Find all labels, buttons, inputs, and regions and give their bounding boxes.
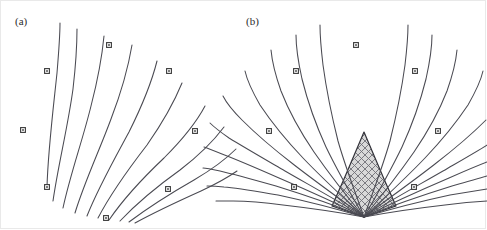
panel-b-marker-7 (292, 185, 297, 190)
panel-a-characteristic-curve-3 (63, 36, 104, 208)
panel-a-characteristic-curve-4 (75, 45, 132, 213)
panel-a-marker-5 (193, 129, 198, 134)
panel-b-marker-5 (436, 129, 441, 134)
panel-a-characteristic-curve-10 (135, 171, 237, 223)
panel-b-marker-6 (412, 185, 417, 190)
panel-b-marker-2 (294, 69, 299, 74)
panel-a-marker-7 (45, 185, 50, 190)
marker-square-center (293, 186, 295, 188)
marker-square-center (295, 70, 297, 72)
marker-square-center (414, 70, 416, 72)
marker-square-center (22, 129, 24, 131)
panel-a-marker-2 (45, 69, 50, 74)
marker-square-center (268, 130, 270, 132)
panel-a-characteristic-curve-8 (120, 127, 224, 221)
panel-b-marker-3 (354, 43, 359, 48)
panel-a-marker-6 (166, 187, 171, 192)
marker-square-center (46, 70, 48, 72)
marker-square-center (413, 186, 415, 188)
panel-a-marker-1 (21, 128, 26, 133)
panel-a-marker-4 (167, 69, 172, 74)
panel-a-characteristic-curve-2 (53, 29, 77, 201)
shaded-focus-region (332, 132, 396, 217)
marker-square-center (105, 217, 107, 219)
panel-b-marker-1 (267, 129, 272, 134)
panel-a-marker-3 (107, 43, 112, 48)
panel-b-marker-4 (413, 69, 418, 74)
panel-b-characteristic-curve-left-6 (210, 123, 364, 217)
panel-a-characteristic-curve-5 (87, 61, 157, 216)
panel-a-characteristic-curve-6 (98, 83, 182, 218)
panel-b-shaded-region (332, 132, 396, 217)
figure-canvas: (a) (b) (1, 1, 487, 230)
panel-b-label: (b) (246, 15, 259, 28)
panel-a-characteristic-curve-1 (47, 23, 60, 187)
marker-square-center (355, 44, 357, 46)
panel-a-marker-8 (104, 216, 109, 221)
panel-b: (b) (203, 15, 487, 217)
panel-a: (a) (15, 15, 237, 223)
marker-square-center (168, 70, 170, 72)
panel-a-label: (a) (15, 15, 28, 28)
marker-square-center (108, 44, 110, 46)
panel-a-curve-family (47, 23, 237, 223)
marker-square-center (194, 130, 196, 132)
marker-square-center (46, 186, 48, 188)
marker-square-center (437, 130, 439, 132)
marker-square-center (167, 188, 169, 190)
panel-a-characteristic-curve-9 (129, 149, 236, 222)
